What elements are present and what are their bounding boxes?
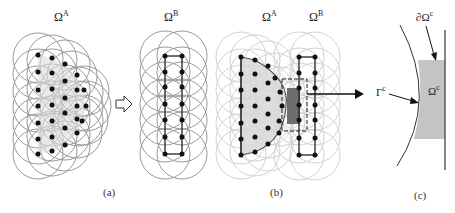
label-omega-a-panel-b: ΩA bbox=[262, 11, 277, 23]
caption-a: (a) bbox=[103, 187, 115, 198]
label-region-omega-c: Ωc bbox=[428, 86, 440, 97]
label-boundary-partial-omega-c: ∂Ωc bbox=[416, 12, 433, 23]
figure-canvas bbox=[0, 0, 455, 213]
transform-arrow-icon bbox=[116, 96, 132, 112]
panel-b bbox=[216, 32, 364, 180]
domain-outline bbox=[165, 56, 182, 154]
interface-pointer-arrow-icon bbox=[389, 94, 419, 104]
boundary-pointer-arrow-icon bbox=[426, 26, 437, 61]
caption-b: (b) bbox=[270, 187, 283, 198]
caption-c: (c) bbox=[414, 190, 426, 201]
label-interface-gamma-c: Γc bbox=[376, 87, 386, 98]
label-omega-a-panel-a: ΩA bbox=[54, 11, 69, 23]
panel-a-omega-b bbox=[140, 31, 207, 179]
nodes bbox=[163, 54, 185, 157]
interface-curve bbox=[397, 25, 419, 166]
label-omega-b-panel-b: ΩB bbox=[309, 11, 323, 23]
support-circles bbox=[140, 31, 207, 179]
panel-a-omega-a bbox=[13, 33, 111, 179]
panel-c bbox=[389, 25, 445, 170]
coupling-region bbox=[414, 60, 445, 139]
label-omega-b-panel-a: ΩB bbox=[164, 11, 178, 23]
